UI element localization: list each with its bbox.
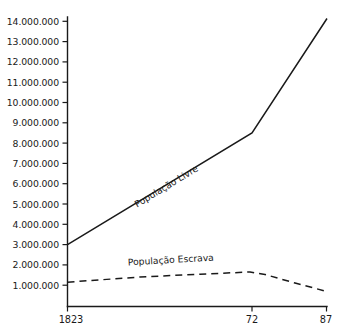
y-tick-label: 4.000.000 xyxy=(13,219,60,230)
y-axis-tick-labels: 14.000.000 13.000.000 12.000.000 11.000.… xyxy=(7,16,59,291)
x-tick-label: 1823 xyxy=(59,314,84,325)
y-tick-label: 11.000.000 xyxy=(7,77,59,88)
chart-canvas: 14.000.000 13.000.000 12.000.000 11.000.… xyxy=(0,0,345,336)
y-tick-label: 1.000.000 xyxy=(13,280,60,291)
y-tick-label: 8.000.000 xyxy=(13,138,60,149)
population-line-chart: 14.000.000 13.000.000 12.000.000 11.000.… xyxy=(0,0,345,336)
series-label-populacao-livre: População Livre xyxy=(132,162,200,209)
y-tick-label: 12.000.000 xyxy=(7,56,59,67)
x-tick-label: 87 xyxy=(320,314,332,325)
y-tick-label: 3.000.000 xyxy=(13,239,60,250)
series-label-populacao-escrava: População Escrava xyxy=(128,252,214,268)
y-tick-label: 9.000.000 xyxy=(13,117,60,128)
x-axis-ticks xyxy=(68,307,327,312)
series-line-populacao-livre xyxy=(68,19,328,245)
y-tick-label: 13.000.000 xyxy=(7,36,59,47)
y-tick-label: 14.000.000 xyxy=(7,16,59,27)
x-axis-tick-labels: 1823 72 87 xyxy=(59,314,332,325)
series-line-populacao-escrava xyxy=(68,272,328,292)
y-tick-label: 6.000.000 xyxy=(13,178,60,189)
x-tick-label: 72 xyxy=(246,314,258,325)
y-tick-label: 2.000.000 xyxy=(13,259,60,270)
y-tick-label: 5.000.000 xyxy=(13,199,60,210)
y-tick-label: 7.000.000 xyxy=(13,158,60,169)
y-tick-label: 10.000.000 xyxy=(7,97,59,108)
y-axis-ticks xyxy=(63,21,68,285)
